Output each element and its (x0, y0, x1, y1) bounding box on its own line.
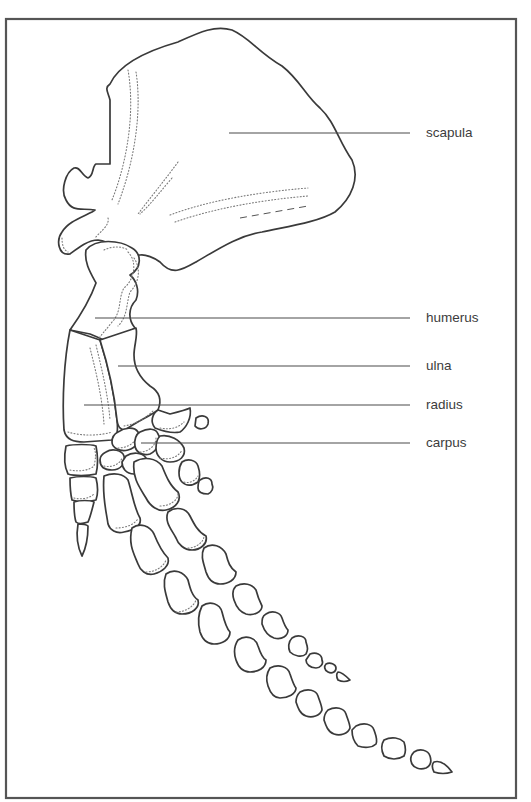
humerus-bone (70, 242, 139, 346)
label-scapula: scapula (426, 125, 473, 141)
digit-1-bones (65, 445, 98, 557)
digit-4-bones (179, 460, 213, 494)
scapula-bone (59, 28, 355, 270)
label-radius: radius (426, 397, 463, 413)
label-carpus: carpus (426, 435, 467, 451)
label-humerus: humerus (426, 310, 479, 326)
label-ulna: ulna (426, 358, 452, 374)
